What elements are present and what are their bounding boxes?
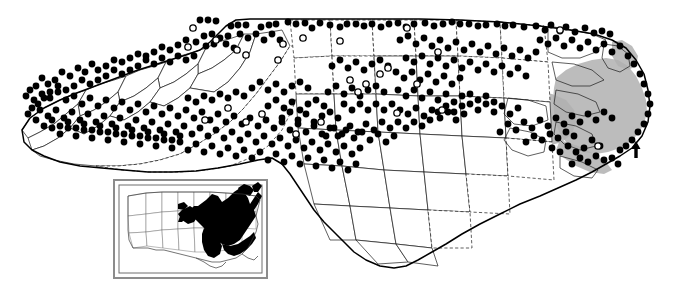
filled-record-dot bbox=[537, 37, 544, 44]
filled-record-dot bbox=[361, 23, 368, 30]
filled-record-dot bbox=[133, 117, 140, 124]
filled-record-dot bbox=[269, 141, 276, 148]
filled-record-dot bbox=[137, 141, 144, 148]
filled-record-dot bbox=[199, 109, 206, 116]
filled-record-dot bbox=[413, 105, 420, 112]
filled-record-dot bbox=[341, 143, 348, 150]
filled-record-dot bbox=[159, 55, 166, 62]
filled-record-dot bbox=[569, 37, 576, 44]
filled-record-dot bbox=[459, 103, 466, 110]
open-record-dot bbox=[385, 65, 391, 71]
filled-record-dot bbox=[197, 17, 204, 24]
filled-record-dot bbox=[483, 93, 490, 100]
filled-record-dot bbox=[175, 42, 182, 49]
filled-record-dot bbox=[386, 21, 393, 28]
filled-record-dot bbox=[235, 22, 242, 29]
filled-record-dot bbox=[65, 125, 72, 132]
filled-record-dot bbox=[623, 143, 630, 150]
filled-record-dot bbox=[213, 127, 220, 134]
filled-record-dot bbox=[545, 123, 552, 130]
filled-record-dot bbox=[167, 105, 174, 112]
filled-record-dot bbox=[565, 143, 572, 150]
filled-record-dot bbox=[427, 117, 434, 124]
filled-record-dot bbox=[281, 89, 288, 96]
filled-record-dot bbox=[515, 65, 522, 72]
open-record-dot bbox=[595, 143, 601, 149]
filled-record-dot bbox=[345, 167, 352, 174]
filled-record-dot bbox=[311, 119, 318, 126]
filled-record-dot bbox=[509, 53, 516, 60]
filled-record-dot bbox=[329, 63, 336, 70]
filled-record-dot bbox=[89, 61, 96, 68]
filled-record-dot bbox=[337, 24, 344, 31]
filled-record-dot bbox=[510, 22, 517, 29]
filled-record-dot bbox=[241, 93, 248, 100]
filled-record-dot bbox=[57, 123, 64, 130]
filled-record-dot bbox=[341, 101, 348, 108]
filled-record-dot bbox=[601, 41, 608, 48]
filled-record-dot bbox=[261, 37, 268, 44]
filled-record-dot bbox=[339, 131, 346, 138]
filled-record-dot bbox=[383, 139, 390, 146]
filled-record-dot bbox=[533, 23, 540, 30]
filled-record-dot bbox=[379, 119, 386, 126]
filled-record-dot bbox=[325, 141, 332, 148]
filled-record-dot bbox=[387, 125, 394, 132]
filled-record-dot bbox=[47, 89, 54, 96]
filled-record-dot bbox=[185, 95, 192, 102]
filled-record-dot bbox=[353, 161, 360, 168]
filled-record-dot bbox=[491, 99, 498, 106]
filled-record-dot bbox=[371, 127, 378, 134]
filled-record-dot bbox=[461, 111, 468, 118]
filled-record-dot bbox=[325, 89, 332, 96]
filled-record-dot bbox=[79, 77, 86, 84]
filled-record-dot bbox=[233, 153, 240, 160]
filled-record-dot bbox=[577, 45, 584, 52]
filled-record-dot bbox=[167, 59, 174, 66]
filled-record-dot bbox=[249, 155, 256, 162]
open-record-dot bbox=[234, 47, 240, 53]
filled-record-dot bbox=[453, 117, 460, 124]
distribution-map-figure bbox=[0, 0, 678, 290]
open-record-dot bbox=[243, 52, 249, 58]
filled-record-dot bbox=[345, 65, 352, 72]
filled-record-dot bbox=[521, 24, 528, 31]
locality-arrow bbox=[632, 141, 641, 158]
filled-record-dot bbox=[617, 147, 624, 154]
filled-record-dot bbox=[601, 109, 608, 116]
filled-record-dot bbox=[151, 49, 158, 56]
filled-record-dot bbox=[209, 97, 216, 104]
filled-record-dot bbox=[231, 113, 238, 120]
filled-record-dot bbox=[89, 135, 96, 142]
filled-record-dot bbox=[177, 133, 184, 140]
filled-record-dot bbox=[245, 35, 252, 42]
filled-record-dot bbox=[287, 127, 294, 134]
filled-record-dot bbox=[277, 135, 284, 142]
filled-record-dot bbox=[55, 83, 62, 90]
filled-record-dot bbox=[547, 131, 554, 138]
open-record-dot bbox=[259, 111, 265, 117]
open-record-dot bbox=[414, 81, 420, 87]
filled-record-dot bbox=[135, 51, 142, 58]
filled-record-dot bbox=[507, 111, 514, 118]
filled-record-dot bbox=[243, 22, 250, 29]
filled-record-dot bbox=[228, 23, 235, 30]
open-record-dot bbox=[435, 49, 441, 55]
filled-record-dot bbox=[35, 101, 42, 108]
filled-record-dot bbox=[265, 103, 272, 110]
filled-record-dot bbox=[25, 111, 32, 118]
filled-record-dot bbox=[302, 20, 309, 27]
filled-record-dot bbox=[266, 22, 273, 29]
filled-record-dot bbox=[63, 97, 70, 104]
open-record-dot bbox=[318, 119, 324, 125]
filled-record-dot bbox=[153, 135, 160, 142]
filled-record-dot bbox=[225, 145, 232, 152]
filled-record-dot bbox=[285, 143, 292, 150]
filled-record-dot bbox=[73, 125, 80, 132]
filled-record-dot bbox=[451, 99, 458, 106]
filled-record-dot bbox=[549, 145, 556, 152]
filled-record-dot bbox=[75, 65, 82, 72]
filled-record-dot bbox=[645, 111, 652, 118]
filled-record-dot bbox=[145, 135, 152, 142]
filled-record-dot bbox=[582, 25, 589, 32]
